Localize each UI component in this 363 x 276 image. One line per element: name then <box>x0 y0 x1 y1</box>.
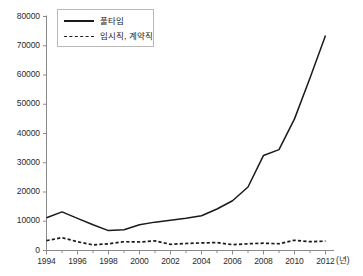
series-group <box>47 36 326 245</box>
legend-item-fulltime: 풀타임 <box>64 14 124 28</box>
y-axis-tick-label: 50000 <box>0 99 40 108</box>
x-axis-tick-label: 2010 <box>278 257 312 266</box>
x-axis-tick-label: 1998 <box>92 257 126 266</box>
x-axis-tick-label: 1996 <box>61 257 95 266</box>
series-line-temporary <box>47 238 326 245</box>
legend-line-solid-icon <box>64 20 94 21</box>
chart-plot-area <box>0 0 363 276</box>
legend-item-temporary: 임시직, 계약직 <box>64 29 153 43</box>
y-axis-tick-label: 10000 <box>0 216 40 225</box>
series-line-fulltime <box>47 36 326 231</box>
x-axis-tick-label: 2000 <box>123 257 157 266</box>
x-axis-tick-label: 2006 <box>216 257 250 266</box>
y-axis-tick-label: 20000 <box>0 187 40 196</box>
y-axis-tick-label: 80000 <box>0 12 40 21</box>
y-axis-tick-label: 60000 <box>0 70 40 79</box>
legend-label-temporary: 임시직, 계약직 <box>100 31 153 41</box>
line-chart: 0100002000030000400005000060000700008000… <box>0 0 363 276</box>
legend-line-dashed-icon <box>64 36 94 37</box>
y-axis-tick-label: 40000 <box>0 129 40 138</box>
x-axis-unit-label: (년) <box>336 256 350 265</box>
y-axis-tick-label: 0 <box>0 246 40 255</box>
x-axis-tick-label: 2008 <box>247 257 281 266</box>
x-axis-tick-label: 2002 <box>154 257 188 266</box>
legend-label-fulltime: 풀타임 <box>100 16 124 26</box>
x-axis-tick-label: 2004 <box>185 257 219 266</box>
y-axis-tick-label: 70000 <box>0 41 40 50</box>
y-axis-tick-label: 30000 <box>0 158 40 167</box>
chart-legend: 풀타임 임시직, 계약직 <box>57 9 154 47</box>
x-axis-tick-label: 1994 <box>30 257 64 266</box>
